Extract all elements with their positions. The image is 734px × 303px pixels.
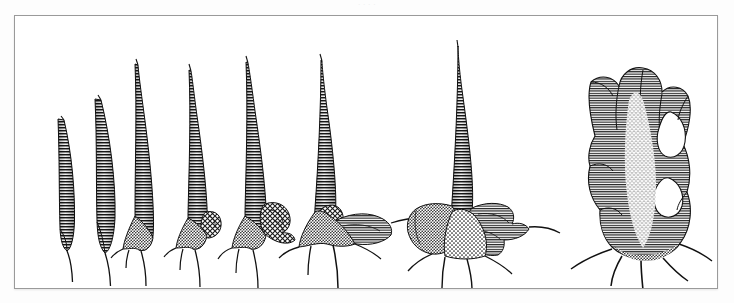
specimen-8 (571, 68, 712, 288)
figure-frame (14, 15, 718, 289)
illustration-plate: · · · · (0, 0, 734, 303)
specimen-illustration-canvas (15, 16, 717, 288)
specimen-6 (279, 54, 419, 288)
specimen-4 (164, 64, 221, 287)
clipped-caption-remnant: · · · · (0, 0, 734, 11)
specimen-3 (111, 59, 154, 286)
specimen-1 (58, 116, 75, 282)
specimen-5 (218, 56, 295, 288)
specimen-7 (407, 40, 560, 288)
